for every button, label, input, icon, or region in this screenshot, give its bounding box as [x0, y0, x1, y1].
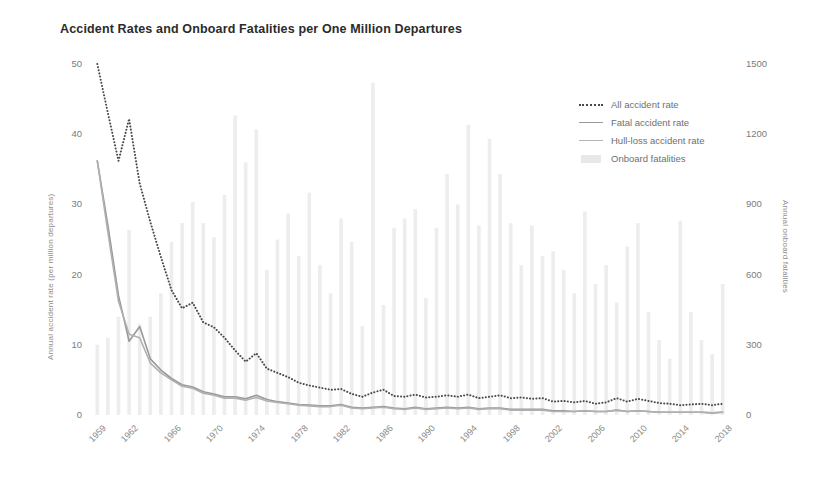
x-tick: 1959 [81, 423, 108, 450]
x-tick: 2002 [537, 423, 564, 450]
legend-label: Onboard fatalities [611, 153, 685, 164]
x-tick: 2018 [707, 423, 734, 450]
y-tick-right: 600 [746, 269, 762, 280]
legend-item[interactable]: All accident rate [578, 96, 758, 113]
solid-line-icon [578, 118, 604, 128]
legend-item[interactable]: Hull-loss accident rate [578, 132, 758, 149]
chart-legend: All accident rateFatal accident rateHull… [578, 96, 758, 168]
y-tick-left: 20 [30, 269, 82, 280]
x-tick: 1990 [410, 423, 437, 450]
series-line [97, 161, 722, 413]
x-tick: 2006 [580, 423, 607, 450]
y-axis-right-title: Annual onboard fatalities [781, 200, 790, 293]
legend-label: Fatal accident rate [611, 117, 689, 128]
chart-title: Accident Rates and Onboard Fatalities pe… [60, 22, 462, 36]
x-tick: 1978 [283, 423, 310, 450]
series-line [97, 161, 722, 413]
y-tick-left: 40 [30, 128, 82, 139]
y-tick-left: 30 [30, 198, 82, 209]
y-tick-right: 900 [746, 198, 762, 209]
x-tick: 2010 [622, 423, 649, 450]
y-tick-left: 50 [30, 58, 82, 69]
x-tick: 1962 [113, 423, 140, 450]
x-tick: 1986 [368, 423, 395, 450]
x-tick: 1998 [495, 423, 522, 450]
legend-item[interactable]: Onboard fatalities [578, 150, 758, 167]
x-tick: 1966 [156, 423, 183, 450]
legend-label: Hull-loss accident rate [611, 135, 704, 146]
y-tick-right: 1500 [746, 58, 767, 69]
y-tick-left: 10 [30, 339, 82, 350]
y-tick-left: 0 [30, 409, 82, 420]
legend-label: All accident rate [611, 99, 679, 110]
x-tick: 1974 [240, 423, 267, 450]
x-tick: 2014 [664, 423, 691, 450]
bar-swatch-icon [578, 154, 604, 164]
dotted-line-icon [578, 100, 604, 110]
x-tick: 1994 [452, 423, 479, 450]
legend-item[interactable]: Fatal accident rate [578, 114, 758, 131]
x-tick: 1982 [325, 423, 352, 450]
solid-line-icon [578, 136, 604, 146]
y-tick-right: 0 [746, 409, 751, 420]
x-tick: 1970 [198, 423, 225, 450]
chart-figure: Accident Rates and Onboard Fatalities pe… [0, 0, 832, 486]
y-tick-right: 300 [746, 339, 762, 350]
